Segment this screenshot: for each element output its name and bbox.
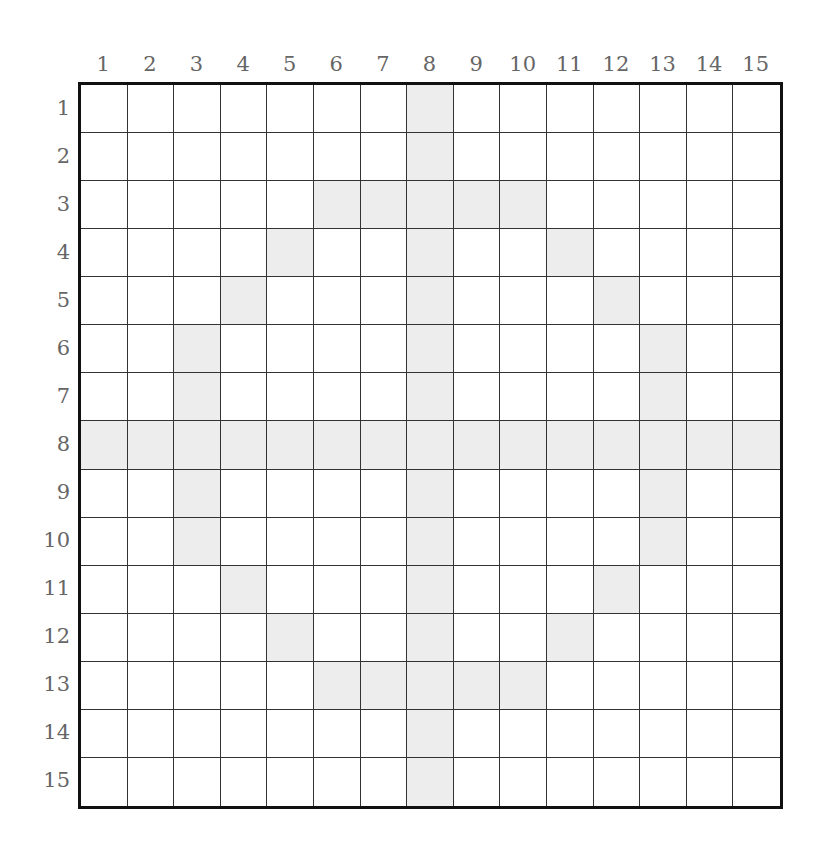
row-labels: 123456789101112131415 [30,84,70,804]
grid-cell [174,614,221,662]
grid-cell [500,518,547,566]
grid-cell [594,181,641,229]
grid-cell [733,133,780,181]
grid-cell [221,85,268,133]
grid-cell [128,181,175,229]
grid-cell [128,470,175,518]
grid-cell [128,85,175,133]
grid-cell [687,373,734,421]
grid-cell [500,614,547,662]
grid-cell [314,470,361,518]
row-label: 4 [30,228,70,276]
grid-cell [454,566,501,614]
grid-cell [454,614,501,662]
grid-cell [454,277,501,325]
grid-cell [221,181,268,229]
grid-cell [547,85,594,133]
grid-cell [128,373,175,421]
grid-cell-shaded [174,373,221,421]
grid-cell [547,133,594,181]
grid-cell [547,566,594,614]
grid-cell-shaded [407,758,454,806]
grid-cell-shaded [361,421,408,469]
grid-cell [687,325,734,373]
grid-cell [361,758,408,806]
column-labels: 123456789101112131415 [80,50,779,78]
row-label: 14 [30,708,70,756]
grid-cell [733,373,780,421]
grid-cell [361,614,408,662]
grid-cell [594,85,641,133]
grid-cell [594,662,641,710]
grid-cell [454,373,501,421]
grid-cell-shaded [547,614,594,662]
grid-cell [361,229,408,277]
grid-cell-shaded [221,421,268,469]
grid-cell [733,85,780,133]
row-label: 1 [30,84,70,132]
grid-cell [314,518,361,566]
row-label: 12 [30,612,70,660]
grid-cell [687,133,734,181]
grid-cell-shaded [733,421,780,469]
grid-cell-shaded [500,181,547,229]
grid-cell [128,566,175,614]
grid-cell [361,470,408,518]
grid-cell [174,133,221,181]
grid-cell [640,662,687,710]
grid-cell [314,614,361,662]
grid-cell [454,85,501,133]
row-label: 2 [30,132,70,180]
grid-cell [128,133,175,181]
grid-cell [500,133,547,181]
grid-cell-shaded [454,662,501,710]
grid-cell-shaded [407,229,454,277]
grid-cell [733,277,780,325]
grid-cell-shaded [361,181,408,229]
grid-cell-shaded [500,421,547,469]
grid-cell [267,518,314,566]
grid-cell [128,710,175,758]
grid-cell [81,758,128,806]
grid-cell [81,181,128,229]
grid-cell-shaded [594,421,641,469]
row-label: 13 [30,660,70,708]
grid-cell [221,662,268,710]
grid-cell [454,133,501,181]
grid-cell [640,758,687,806]
grid-cell [640,181,687,229]
grid-cell-shaded [407,421,454,469]
grid-cell-shaded [640,421,687,469]
grid-cell-shaded [174,421,221,469]
row-label: 3 [30,180,70,228]
grid-cell-shaded [81,421,128,469]
grid-cell [314,229,361,277]
grid-cell-shaded [407,181,454,229]
grid-cell-shaded [407,325,454,373]
grid-cell [454,518,501,566]
grid-cell [733,518,780,566]
grid-cell [640,277,687,325]
grid-cell-shaded [174,518,221,566]
grid-cell-shaded [454,421,501,469]
grid-cell [361,325,408,373]
grid-cell [687,614,734,662]
grid-cell [267,373,314,421]
grid-cell-shaded [128,421,175,469]
grid-cell [81,229,128,277]
grid-cell [174,181,221,229]
grid-cell [314,277,361,325]
grid-cell-shaded [407,614,454,662]
grid-cell [314,325,361,373]
grid-cell [221,614,268,662]
grid-cell [687,277,734,325]
column-label: 10 [499,50,546,78]
column-label: 3 [173,50,220,78]
grid-cell [267,566,314,614]
grid-cell-shaded [407,277,454,325]
grid-cell-shaded [407,133,454,181]
grid-cell [640,85,687,133]
grid-cell [687,662,734,710]
grid-cell [81,133,128,181]
grid-cell-shaded [314,181,361,229]
